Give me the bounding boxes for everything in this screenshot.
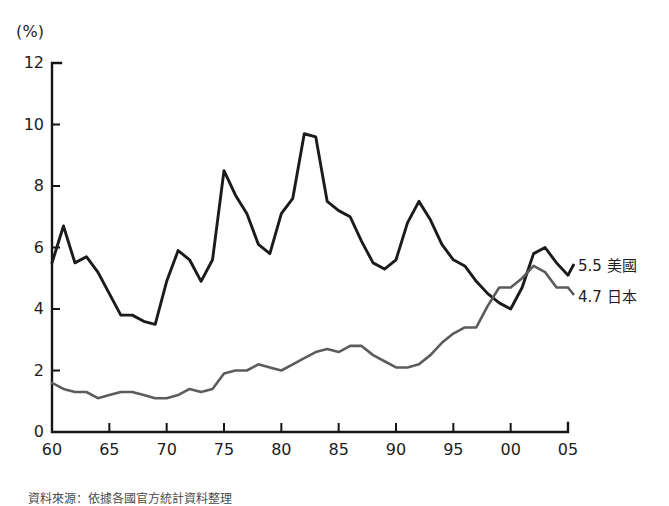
y-axis-tick-label: 0 — [10, 422, 44, 441]
y-axis-tick-label: 10 — [10, 115, 44, 134]
x-axis-tick-label: 70 — [147, 440, 187, 459]
x-axis-tick-label: 95 — [433, 440, 473, 459]
x-axis-tick-label: 85 — [319, 440, 359, 459]
y-axis-tick-label: 2 — [10, 361, 44, 380]
y-axis-tick-label: 12 — [10, 53, 44, 72]
y-axis-tick-label: 8 — [10, 176, 44, 195]
x-axis-tick-label: 05 — [548, 440, 588, 459]
source-note: 資料來源：依據各國官方統計資料整理 — [28, 489, 232, 506]
legend-value-united-states: 5.5 — [578, 257, 602, 275]
series-line-japan — [52, 266, 568, 398]
legend-leader-japan — [568, 287, 574, 295]
x-axis-tick-label: 65 — [89, 440, 129, 459]
chart-axes — [52, 63, 568, 432]
x-axis-tick-label: 90 — [376, 440, 416, 459]
y-axis-tick-label: 4 — [10, 299, 44, 318]
legend-label-japan: 日本 — [607, 288, 637, 306]
x-axis-tick-label: 80 — [261, 440, 301, 459]
legend-value-japan: 4.7 — [578, 288, 602, 306]
legend-item-united-states: 5.5 美國 — [578, 254, 637, 275]
x-axis-tick-label: 75 — [204, 440, 244, 459]
legend-item-japan: 4.7 日本 — [578, 285, 637, 306]
y-axis-tick-label: 6 — [10, 238, 44, 257]
legend-leader-united-states — [568, 264, 574, 275]
legend-label-united-states: 美國 — [607, 257, 637, 275]
series-line-united-states — [52, 134, 568, 325]
axis-ticks — [52, 125, 568, 433]
x-axis-tick-label: 60 — [32, 440, 72, 459]
x-axis-tick-label: 00 — [491, 440, 531, 459]
data-series-group — [52, 134, 574, 398]
